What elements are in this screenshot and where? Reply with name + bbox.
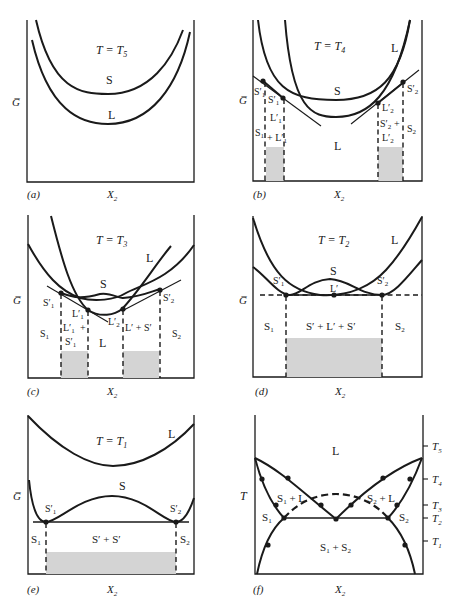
panel-d-shade <box>286 338 382 377</box>
svg-text:G̅: G̅ <box>13 490 22 502</box>
svg-text:S2: S2 <box>399 511 409 525</box>
panel-f-solidus-right <box>388 458 422 518</box>
panel-a-tag: (a) <box>27 188 40 201</box>
svg-text:S1: S1 <box>262 511 272 525</box>
svg-text:S′1: S′1 <box>43 297 55 310</box>
svg-text:L′1: L′1 <box>270 112 282 125</box>
panel-e-tag: (e) <box>27 583 40 596</box>
svg-text:S′1: S′1 <box>65 336 77 349</box>
panel-b-y-axis-label: G̅ <box>239 94 248 106</box>
panel-c-temperature: T = T3 <box>96 233 127 249</box>
panel-b-x-axis-label: X2 <box>333 188 345 203</box>
panel-b-shade-left <box>266 147 284 181</box>
panel-f-liquidus-left <box>255 458 336 519</box>
svg-text:L: L <box>146 251 153 265</box>
svg-text:L′: L′ <box>330 283 338 294</box>
svg-text:S: S <box>330 264 337 278</box>
svg-text:L′1: L′1 <box>72 308 84 321</box>
svg-text:L′2: L′2 <box>108 316 120 329</box>
svg-text:X2: X2 <box>334 583 346 598</box>
svg-text:S′2: S′2 <box>170 503 182 516</box>
panel-f-y-axis-label: T <box>240 489 248 503</box>
panel-b-tag: (b) <box>253 188 266 201</box>
svg-text:+: + <box>394 118 400 129</box>
svg-text:L′2: L′2 <box>382 102 394 115</box>
panel-b-liquid-curve <box>285 20 410 117</box>
svg-text:T5: T5 <box>432 440 442 455</box>
svg-text:L: L <box>168 427 175 441</box>
svg-text:G̅: G̅ <box>13 294 22 306</box>
panel-c-tag: (c) <box>27 385 40 398</box>
panel-f: L S1 + L S2 + L S1 S2 S1 + S2 T5 T4 T3 T… <box>240 415 442 598</box>
panel-c-liquid-curve <box>51 216 171 315</box>
svg-text:L: L <box>391 233 398 247</box>
panel-f-solvus-left <box>257 518 284 574</box>
phase-diagram-figure: T = T5 S L G̅ X2 (a) T = T4 L S L S′1 S′… <box>0 0 458 606</box>
panel-b-temperature: T = T4 <box>314 39 345 55</box>
panel-b: T = T4 L S L S′1 S′1 L′1 S1 + L′1 L′2 S′… <box>239 20 422 203</box>
svg-text:S2: S2 <box>395 320 405 334</box>
panel-e: T = T1 L S S′1 S′2 S1 S2 S′ + S′ G̅ X2 (… <box>13 415 194 598</box>
svg-text:S2: S2 <box>172 328 182 341</box>
panel-a: T = T5 S L G̅ X2 (a) <box>12 20 194 203</box>
panel-d-temperature: T = T2 <box>318 233 349 249</box>
svg-text:S1: S1 <box>40 328 50 341</box>
svg-text:G̅: G̅ <box>239 294 248 306</box>
svg-text:S: S <box>100 277 107 291</box>
panel-a-y-axis-label: G̅ <box>12 96 21 108</box>
panel-a-temperature: T = T5 <box>96 43 127 59</box>
svg-text:T4: T4 <box>432 473 442 488</box>
panel-a-label-l: L <box>108 108 115 122</box>
panel-e-two-phase-label: S′ + S′ <box>92 533 121 545</box>
svg-text:S′2: S′2 <box>163 292 175 305</box>
panel-e-shade <box>46 552 176 574</box>
panel-f-solvus-right <box>388 518 415 574</box>
panel-d-three-phase-label: S′ + L′ + S′ <box>306 320 356 332</box>
svg-text:S1: S1 <box>255 127 265 140</box>
svg-text:X2: X2 <box>106 385 118 400</box>
panel-d: T = T2 L S L′ S′1 S′2 S1 S2 S′ + L′ + S′… <box>239 216 422 400</box>
panel-c-tangent-right <box>122 280 181 311</box>
svg-text:T1: T1 <box>432 535 442 550</box>
svg-text:+: + <box>80 322 86 333</box>
panel-c-shade-right <box>123 351 159 378</box>
panel-c-shade-left <box>61 351 88 378</box>
panel-f-tag: (f) <box>253 583 264 596</box>
svg-text:S2 + L: S2 + L <box>367 492 395 506</box>
svg-text:S′1: S′1 <box>45 503 57 516</box>
panel-b-label-s: S <box>334 84 341 98</box>
svg-text:L′2: L′2 <box>382 132 394 145</box>
svg-text:S′2: S′2 <box>407 83 419 96</box>
panel-a-label-s: S <box>106 73 113 87</box>
panel-b-label-l-region: L <box>334 139 341 153</box>
panel-d-tag: (d) <box>255 385 268 398</box>
svg-text:S2: S2 <box>407 123 417 136</box>
svg-text:T2: T2 <box>432 512 442 527</box>
svg-text:S′1: S′1 <box>254 86 266 99</box>
svg-text:S1 + S2: S1 + S2 <box>320 541 351 555</box>
svg-text:S′2: S′2 <box>380 118 392 131</box>
svg-text:X2: X2 <box>334 385 346 400</box>
svg-text:S1: S1 <box>264 320 274 334</box>
svg-text:L: L <box>99 336 106 350</box>
svg-text:S2: S2 <box>180 533 190 547</box>
svg-text:S: S <box>119 479 126 493</box>
svg-text:L′1: L′1 <box>63 322 75 335</box>
svg-text:S′1: S′1 <box>268 94 280 107</box>
svg-text:S1 + L: S1 + L <box>277 492 305 506</box>
svg-text:X2: X2 <box>106 583 118 598</box>
svg-text:S′2: S′2 <box>377 275 389 288</box>
svg-text:L: L <box>332 444 339 458</box>
panel-a-x-axis-label: X2 <box>106 188 118 203</box>
panel-b-label-l-curve: L <box>391 41 398 55</box>
panel-e-temperature: T = T1 <box>96 434 127 450</box>
svg-text:L′ + S′: L′ + S′ <box>125 322 152 333</box>
panel-c: T = T3 L S L S′1 L′1 L′1 + S′1 L′2 L′ + … <box>13 215 194 400</box>
svg-text:S1: S1 <box>31 533 41 547</box>
panel-b-shade-right <box>378 147 403 181</box>
